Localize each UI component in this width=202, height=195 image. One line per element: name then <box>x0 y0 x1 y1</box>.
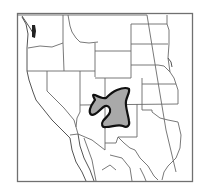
sonora-chihuahua-border <box>84 138 96 181</box>
missouri-river <box>170 72 178 104</box>
baja-west-coast <box>70 138 86 181</box>
nm-mexico-border <box>105 137 118 143</box>
sd-ne-border <box>131 65 170 72</box>
coahuila-nuevo-leon-border <box>140 168 146 181</box>
map-canvas <box>0 0 202 195</box>
species-range-area <box>90 88 129 127</box>
mn-border <box>167 15 170 72</box>
texas-gulf-coast <box>162 122 181 180</box>
meridian-line <box>147 15 176 172</box>
ok-tx-border <box>142 104 178 122</box>
wa-or-border <box>28 43 63 48</box>
az-ca-border <box>76 105 80 134</box>
rio-grande <box>118 137 158 180</box>
puget-sound <box>32 25 36 38</box>
gulf-of-california-coast <box>78 134 94 181</box>
or-id-border <box>63 43 64 71</box>
id-mt-border <box>68 15 98 43</box>
mexico-interior-border <box>102 165 116 170</box>
range-map: Western United States and northern Mexic… <box>0 0 202 195</box>
